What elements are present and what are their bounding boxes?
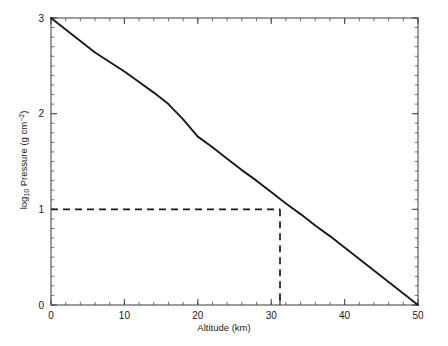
x-tick-label: 0 (48, 310, 54, 321)
x-axis-label: Altitude (km) (0, 322, 448, 333)
pressure-curve (51, 18, 418, 305)
x-tick-label: 40 (339, 310, 351, 321)
x-tick-label: 10 (119, 310, 131, 321)
y-axis-label-superscript: −2 (18, 114, 25, 122)
axis-tick-labels: 010203040500123 (38, 13, 424, 321)
y-axis-label-subscript: 10 (23, 189, 30, 197)
y-tick-label: 3 (38, 13, 44, 24)
y-axis-label: log10 Pressure (g cm−2) (18, 111, 30, 210)
y-tick-label: 0 (38, 300, 44, 311)
data-series-group (51, 18, 418, 305)
x-tick-label: 30 (266, 310, 278, 321)
y-axis-label-suffix: ) (18, 111, 29, 114)
x-tick-label: 20 (192, 310, 204, 321)
y-tick-label: 1 (38, 204, 44, 215)
y-axis-label-prefix: log (18, 197, 29, 210)
y-tick-label: 2 (38, 108, 44, 119)
chart-figure: 010203040500123 Altitude (km) log10 Pres… (0, 0, 448, 346)
guide-lines (51, 209, 280, 305)
y-axis-label-wrapper: log10 Pressure (g cm−2) (13, 60, 29, 260)
y-axis-label-middle: Pressure (g cm (18, 122, 29, 189)
x-tick-label: 50 (412, 310, 424, 321)
plot-area: 010203040500123 (0, 0, 448, 346)
